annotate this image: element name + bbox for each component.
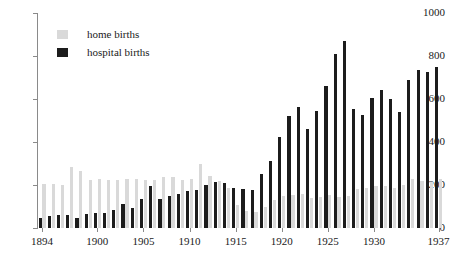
x-tick-label: 1905	[123, 236, 163, 247]
bar-hospital-births	[85, 214, 88, 228]
bar-hospital-births	[407, 80, 410, 228]
bar-home-births	[218, 181, 221, 228]
x-tick	[374, 228, 375, 232]
bar-hospital-births	[278, 137, 281, 228]
bar-hospital-births	[177, 194, 180, 228]
x-tick-label: 1910	[170, 236, 210, 247]
bar-home-births	[439, 179, 442, 228]
bar-home-births	[310, 198, 313, 228]
bar-hospital-births	[103, 213, 106, 228]
bar-home-births	[70, 167, 73, 228]
x-tick	[97, 228, 98, 232]
bar-hospital-births	[168, 196, 171, 228]
bar-hospital-births	[214, 182, 217, 228]
bar-hospital-births	[297, 107, 300, 228]
bar-hospital-births	[417, 70, 420, 228]
bar-hospital-births	[241, 189, 244, 228]
x-tick	[236, 228, 237, 232]
bar-hospital-births	[389, 99, 392, 228]
x-tick	[190, 228, 191, 232]
bar-hospital-births	[306, 129, 309, 228]
bar-home-births	[356, 189, 359, 228]
bar-hospital-births	[334, 54, 337, 228]
bar-home-births	[347, 196, 350, 228]
bar-hospital-births	[131, 208, 134, 228]
bar-hospital-births	[343, 41, 346, 228]
bar-hospital-births	[269, 161, 272, 228]
bar-home-births	[116, 180, 119, 228]
bar-home-births	[374, 186, 377, 228]
bar-home-births	[291, 195, 294, 228]
x-tick	[143, 228, 144, 232]
bar-home-births	[52, 184, 55, 228]
bar-home-births	[420, 181, 423, 228]
bar-home-births	[227, 188, 230, 228]
bar-home-births	[153, 180, 156, 228]
bar-home-births	[319, 197, 322, 228]
x-tick	[42, 228, 43, 232]
bar-hospital-births	[204, 185, 207, 228]
bar-hospital-births	[370, 98, 373, 228]
bar-home-births	[42, 184, 45, 228]
bar-hospital-births	[158, 199, 161, 228]
bar-hospital-births	[186, 191, 189, 228]
bar-hospital-births	[195, 190, 198, 228]
bar-home-births	[199, 164, 202, 229]
legend-swatch-hospital-births-icon	[57, 48, 68, 57]
legend-label-hospital-births: hospital births	[87, 46, 150, 59]
bar-hospital-births	[66, 215, 69, 228]
bar-home-births	[162, 177, 165, 228]
bar-home-births	[328, 195, 331, 228]
bar-home-births	[190, 179, 193, 228]
bar-hospital-births	[398, 112, 401, 228]
bar-home-births	[264, 207, 267, 229]
bar-hospital-births	[435, 67, 438, 228]
bar-home-births	[365, 188, 368, 228]
bar-hospital-births	[380, 90, 383, 228]
bar-hospital-births	[75, 218, 78, 228]
x-tick-label: 1937	[419, 236, 454, 247]
bar-hospital-births	[57, 215, 60, 228]
x-tick-label: 1920	[262, 236, 302, 247]
bar-home-births	[245, 211, 248, 228]
bar-hospital-births	[94, 213, 97, 228]
bar-home-births	[282, 196, 285, 228]
bar-home-births	[208, 176, 211, 228]
bar-hospital-births	[149, 186, 152, 228]
bar-hospital-births	[48, 216, 51, 228]
bar-home-births	[107, 180, 110, 228]
bar-hospital-births	[324, 86, 327, 228]
bar-home-births	[171, 177, 174, 228]
bar-home-births	[79, 171, 82, 228]
bar-hospital-births	[140, 199, 143, 228]
bar-home-births	[98, 179, 101, 228]
bar-home-births	[384, 186, 387, 228]
bar-home-births	[89, 180, 92, 228]
bar-home-births	[301, 194, 304, 228]
bar-hospital-births	[232, 188, 235, 228]
bar-home-births	[236, 205, 239, 228]
bar-home-births	[254, 212, 257, 228]
bar-hospital-births	[223, 183, 226, 228]
bar-home-births	[393, 188, 396, 228]
bar-hospital-births	[39, 218, 42, 228]
legend-swatch-home-births-icon	[57, 30, 68, 39]
bar-home-births	[61, 185, 64, 228]
bar-hospital-births	[121, 204, 124, 228]
bar-hospital-births	[361, 115, 364, 228]
x-tick-label: 1894	[22, 236, 62, 247]
x-tick-label: 1930	[354, 236, 394, 247]
y-tick	[33, 228, 37, 229]
bar-home-births	[411, 179, 414, 228]
bar-home-births	[337, 197, 340, 228]
bar-hospital-births	[352, 109, 355, 228]
x-tick-label: 1915	[216, 236, 256, 247]
bar-home-births	[125, 179, 128, 228]
bar-hospital-births	[112, 210, 115, 228]
legend-label-home-births: home births	[87, 28, 139, 41]
bar-hospital-births	[260, 174, 263, 228]
bar-hospital-births	[251, 190, 254, 228]
x-tick	[439, 228, 440, 232]
bar-hospital-births	[287, 116, 290, 228]
